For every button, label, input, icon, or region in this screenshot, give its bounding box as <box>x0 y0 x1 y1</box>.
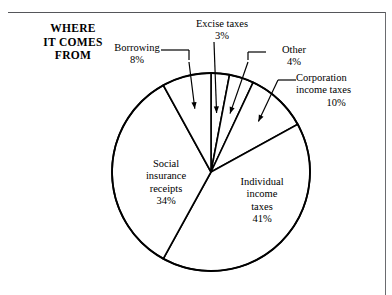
slice-label-individual-income-taxes-percent: 41% <box>222 213 302 225</box>
slice-label-excise-taxes: Excise taxes 3% <box>178 18 266 43</box>
slice-label-other-name: Other <box>268 44 320 56</box>
chart-canvas: WHERE IT COMES FROM Excise taxes 3% Borr… <box>0 0 392 295</box>
slice-label-corporation-income-taxes: Corporation income taxes 10% <box>296 72 386 109</box>
slice-label-corporation-income-taxes-name: Corporation <box>296 72 386 84</box>
slice-label-excise-taxes-percent: 3% <box>178 30 266 42</box>
slice-label-social-insurance-receipts-name: Social <box>122 158 210 170</box>
slice-label-individual-income-taxes-name3: taxes <box>222 201 302 213</box>
slice-label-individual-income-taxes-name2: income <box>222 188 302 200</box>
slice-label-individual-income-taxes-name: Individual <box>222 176 302 188</box>
slice-label-social-insurance-receipts: Social insurance receipts 34% <box>122 158 210 208</box>
slice-label-corporation-income-taxes-name2: income taxes <box>296 84 386 96</box>
slice-label-borrowing: Borrowing 8% <box>98 42 176 67</box>
slice-label-social-insurance-receipts-percent: 34% <box>122 195 210 207</box>
slice-label-borrowing-percent: 8% <box>98 54 176 66</box>
slice-label-corporation-income-taxes-percent: 10% <box>296 97 376 109</box>
slice-label-other-percent: 4% <box>268 56 320 68</box>
slice-label-social-insurance-receipts-name3: receipts <box>122 183 210 195</box>
slice-label-borrowing-name: Borrowing <box>98 42 176 54</box>
slice-label-social-insurance-receipts-name2: insurance <box>122 170 210 182</box>
slice-label-other: Other 4% <box>268 44 320 69</box>
pie-chart-graphic <box>0 0 392 295</box>
slice-label-excise-taxes-name: Excise taxes <box>178 18 266 30</box>
slice-label-individual-income-taxes: Individual income taxes 41% <box>222 176 302 226</box>
